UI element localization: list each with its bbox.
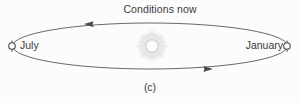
orbit-diagram-figure: Conditions now July January (c) bbox=[0, 0, 300, 103]
orbit-label-july: July bbox=[20, 40, 39, 51]
orbit-direction-arrow-top bbox=[84, 21, 94, 27]
annotation-conditions-now: Conditions now bbox=[10, 4, 300, 15]
panel-caption: (c) bbox=[0, 82, 300, 93]
orbit-label-january: January bbox=[246, 40, 283, 51]
earth-marker-january bbox=[284, 41, 291, 53]
sun-icon bbox=[135, 29, 169, 63]
